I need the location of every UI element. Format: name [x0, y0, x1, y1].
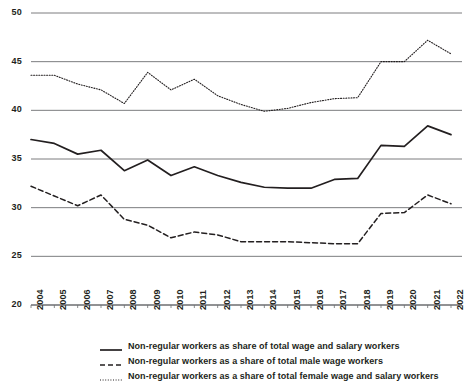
series-lines	[31, 40, 451, 243]
x-tick-label-2013: 2013	[245, 289, 255, 310]
y-tick-label-40: 40	[2, 104, 22, 114]
x-tick-label-2016: 2016	[315, 289, 325, 310]
legend-item-2[interactable]: Non-regular workers as a share of total …	[100, 368, 439, 383]
legend-item-1[interactable]: Non-regular workers as a share of total …	[100, 353, 383, 368]
y-tick-label-25: 25	[2, 250, 22, 260]
legend-label-2: Non-regular workers as a share of total …	[128, 371, 439, 381]
legend-line-sample-dashed-icon	[100, 356, 122, 366]
x-tick-label-2015: 2015	[292, 289, 302, 310]
legend-line-sample-solid-icon	[100, 341, 122, 351]
x-tick-label-2012: 2012	[222, 289, 232, 310]
x-tick-label-2011: 2011	[198, 290, 208, 310]
x-tick-label-2009: 2009	[152, 289, 162, 310]
x-tick-label-2014: 2014	[268, 289, 278, 310]
series-line-1	[31, 186, 451, 243]
legend-item-0[interactable]: Non-regular workers as share of total wa…	[100, 338, 400, 353]
x-tick-label-2019: 2019	[385, 289, 395, 310]
y-tick-label-45: 45	[2, 56, 22, 66]
line-chart: 50454035302520 2004200520062007200820092…	[0, 0, 475, 384]
series-line-0	[31, 126, 451, 188]
plot-svg	[0, 0, 475, 320]
x-tick-label-2007: 2007	[105, 289, 115, 310]
x-tick-label-2018: 2018	[362, 289, 372, 310]
legend-label-1: Non-regular workers as a share of total …	[128, 356, 383, 366]
y-tick-label-50: 50	[2, 7, 22, 17]
x-tick-label-2020: 2020	[408, 289, 418, 310]
x-tick-label-2021: 2021	[432, 289, 442, 310]
chart-legend: Non-regular workers as share of total wa…	[0, 338, 475, 384]
legend-line-sample-dotted-icon	[100, 371, 122, 381]
series-line-2	[31, 40, 451, 111]
gridlines	[31, 13, 462, 308]
x-tick-label-2005: 2005	[58, 289, 68, 310]
legend-label-0: Non-regular workers as share of total wa…	[128, 341, 400, 351]
y-tick-label-35: 35	[2, 153, 22, 163]
x-tick-label-2006: 2006	[82, 289, 92, 310]
x-tick-label-2022: 2022	[455, 289, 465, 310]
y-tick-label-20: 20	[2, 299, 22, 309]
plot-area: 50454035302520 2004200520062007200820092…	[0, 0, 475, 320]
y-tick-label-30: 30	[2, 202, 22, 212]
x-tick-label-2004: 2004	[35, 289, 45, 310]
x-tick-label-2008: 2008	[128, 289, 138, 310]
x-tick-label-2017: 2017	[338, 289, 348, 310]
x-tick-label-2010: 2010	[175, 289, 185, 310]
